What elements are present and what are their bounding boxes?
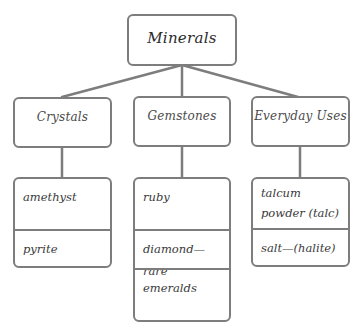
- category-label: Gemstones: [135, 109, 229, 123]
- root-node-minerals: Minerals: [127, 14, 237, 66]
- connector-root-crystals: [62, 65, 182, 97]
- category-node-crystals: Crystals: [13, 97, 112, 148]
- list-gemstones: ruby diamond—rare emeralds: [133, 177, 231, 322]
- category-label: Crystals: [15, 110, 110, 124]
- list-item: emeralds: [135, 268, 229, 322]
- list-item: pyrite: [15, 229, 110, 268]
- list-item: talcum powder (talc): [253, 179, 348, 230]
- root-label: Minerals: [129, 29, 235, 47]
- list-everyday-uses: talcum powder (talc) salt—(halite): [251, 177, 350, 267]
- list-item: amethyst: [15, 179, 110, 231]
- list-item: salt—(halite): [253, 228, 348, 267]
- mineral-tree-diagram: Minerals Crystals Gemstones Everyday Use…: [0, 0, 364, 336]
- list-crystals: amethyst pyrite: [13, 177, 112, 268]
- category-node-everyday-uses: Everyday Uses: [251, 96, 350, 147]
- list-item: diamond—rare: [135, 229, 229, 269]
- connector-root-everyday: [182, 65, 298, 97]
- category-label: Everyday Uses: [253, 109, 348, 123]
- category-node-gemstones: Gemstones: [133, 96, 231, 147]
- list-item: ruby: [135, 179, 229, 231]
